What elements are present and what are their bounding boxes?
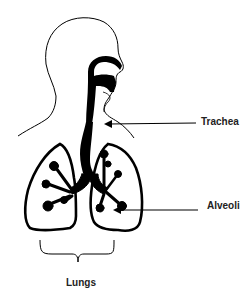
head-body-outline: [18, 18, 134, 138]
respiratory-system-diagram: [0, 0, 252, 298]
trachea-label: Trachea: [201, 116, 239, 127]
trachea-shape: [80, 122, 96, 176]
nasal-oral-airway: [86, 56, 122, 124]
lungs-brace: [40, 240, 114, 262]
alveoli-label: Alveoli: [207, 200, 240, 211]
trachea-pointer: [104, 120, 196, 128]
lungs-label: Lungs: [66, 277, 96, 288]
